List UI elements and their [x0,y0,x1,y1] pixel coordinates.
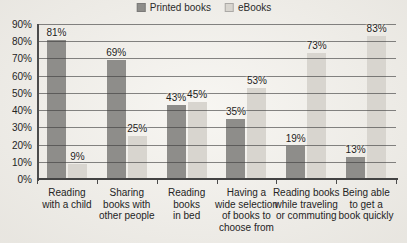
bar-value-label: 13% [346,144,366,155]
bar-ebook-5 [307,53,326,179]
x-axis-tick [396,180,397,184]
x-axis-tick [336,180,337,184]
y-tick-label: 90% [4,19,32,30]
y-axis-line [37,24,39,181]
x-axis-tick [217,180,218,184]
bar-printed-6 [346,157,365,179]
category-label-3: Reading books in bed [168,187,205,222]
gridline-60 [37,76,396,77]
legend-item-ebooks: eBooks [225,2,271,13]
y-tick-label: 10% [4,156,32,167]
bar-printed-3 [167,105,186,179]
bar-value-label: 45% [187,89,207,100]
bar-value-label: 73% [307,40,327,51]
y-tick-label: 60% [4,70,32,81]
bar-value-label: 25% [127,123,147,134]
legend-item-printed-books: Printed books [137,2,211,13]
bar-value-label: 69% [106,47,126,58]
bar-value-label: 53% [247,75,267,86]
category-label-6: Being able to get a book quickly [339,187,394,222]
bar-value-label: 35% [226,106,246,117]
y-tick-label: 40% [4,105,32,116]
x-axis-tick [37,180,38,184]
x-axis-tick [276,180,277,184]
bar-value-label: 81% [46,27,66,38]
y-tick-label: 50% [4,87,32,98]
gridline-40 [37,110,396,111]
legend: Printed books eBooks [137,1,272,13]
gridline-90 [37,24,396,25]
x-axis-line [37,178,398,180]
ebooks-swatch-icon [225,3,234,12]
bar-value-label: 43% [166,92,186,103]
category-label-5: Reading books while traveling or commuti… [273,187,340,222]
gridline-70 [37,58,396,59]
bar-chart-figure: Printed books eBooks 81%69%43%35%19%13%9… [0,0,407,243]
y-tick-label: 70% [4,53,32,64]
bar-ebook-2 [128,136,147,179]
x-axis-tick [97,180,98,184]
category-label-1: Reading with a child [42,187,91,210]
bar-ebook-3 [188,102,207,180]
gridline-50 [37,93,396,94]
printed-books-swatch-icon [137,3,146,12]
plot-area: 81%69%43%35%19%13%9%25%45%53%73%83%0%10%… [0,0,407,243]
legend-label-printed-books: Printed books [150,2,211,13]
y-tick-label: 30% [4,122,32,133]
bar-ebook-4 [247,88,266,179]
gridline-30 [37,127,396,128]
gridline-80 [37,41,396,42]
y-tick-label: 0% [4,174,32,185]
bar-ebook-1 [68,164,87,180]
legend-label-ebooks: eBooks [238,2,271,13]
gridline-10 [37,162,396,163]
category-label-4: Having a wide selection of books to choo… [215,187,278,233]
bar-value-label: 19% [286,133,306,144]
gridline-20 [37,145,396,146]
y-tick-label: 80% [4,36,32,47]
bar-value-label: 9% [70,151,84,162]
x-axis-tick [157,180,158,184]
bar-value-label: 83% [367,23,387,34]
y-tick-label: 20% [4,139,32,150]
category-label-2: Sharing books with other people [99,187,155,222]
